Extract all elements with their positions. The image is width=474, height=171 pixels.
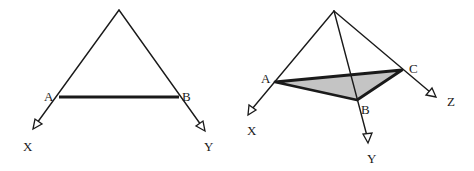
right-figure: A B C X Y Z: [247, 11, 455, 166]
left-label-b: B: [182, 89, 191, 104]
right-label-z: Z: [447, 94, 455, 109]
left-figure: A B X Y: [23, 10, 214, 154]
left-label-y: Y: [204, 139, 214, 154]
right-label-y: Y: [367, 151, 377, 166]
right-label-x: X: [247, 123, 257, 138]
right-ray-x: [252, 11, 334, 109]
right-arrowhead-y-icon: [363, 133, 372, 143]
left-ray-x: [37, 10, 119, 123]
right-label-c: C: [409, 61, 418, 76]
left-ray-y: [119, 10, 201, 125]
left-label-x: X: [23, 139, 33, 154]
right-label-a: A: [261, 71, 271, 86]
right-triangle-abc: [275, 70, 402, 100]
left-label-a: A: [44, 89, 54, 104]
diagram-canvas: A B X Y A B C X Y Z: [0, 0, 474, 171]
left-arrowhead-y-icon: [196, 121, 205, 131]
right-label-b: B: [361, 102, 370, 117]
left-arrowhead-x-icon: [33, 119, 42, 129]
